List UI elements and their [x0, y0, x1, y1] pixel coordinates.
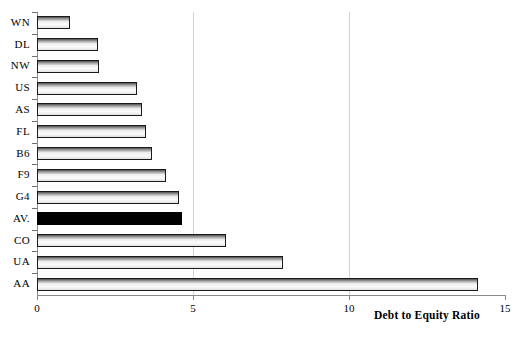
- bar-row: [37, 208, 505, 230]
- bar-row: [37, 164, 505, 186]
- bar-row: [37, 251, 505, 273]
- y-tick-label-av: AV.: [0, 213, 30, 224]
- x-tick-mark: [349, 295, 350, 300]
- x-tick-label-10: 10: [344, 302, 355, 314]
- x-tick-mark: [505, 295, 506, 300]
- x-tick-mark: [37, 295, 38, 300]
- bar-row: [37, 273, 505, 295]
- bar-co: [37, 234, 226, 247]
- y-tick-label-fl: FL: [0, 126, 30, 137]
- chart-container: WNDLNWUSASFLB6F9G4AV.COUAAA 051015 Debt …: [0, 0, 525, 337]
- bar-g4: [37, 191, 179, 204]
- x-axis-title: Debt to Equity Ratio: [374, 309, 480, 321]
- y-tick-label-dl: DL: [0, 39, 30, 50]
- bar-row: [37, 77, 505, 99]
- y-tick-label-nw: NW: [0, 60, 30, 71]
- bar-row: [37, 230, 505, 252]
- x-tick-label-15: 15: [500, 302, 511, 314]
- y-tick-label-g4: G4: [0, 191, 30, 202]
- bar-b6: [37, 147, 152, 160]
- y-tick-label-b6: B6: [0, 148, 30, 159]
- bar-aa: [37, 278, 478, 291]
- y-tick-label-as: AS: [0, 104, 30, 115]
- bar-row: [37, 143, 505, 165]
- y-tick-label-us: US: [0, 82, 30, 93]
- x-axis-line: [37, 295, 505, 296]
- y-tick-label-wn: WN: [0, 17, 30, 28]
- plot-area: [37, 12, 505, 295]
- bar-us: [37, 82, 137, 95]
- y-tick-label-f9: F9: [0, 169, 30, 180]
- bar-wn: [37, 16, 70, 29]
- bar-fl: [37, 125, 146, 138]
- bar-nw: [37, 60, 99, 73]
- bar-ua: [37, 256, 283, 269]
- bar-row: [37, 56, 505, 78]
- bar-f9: [37, 169, 166, 182]
- bar-row: [37, 34, 505, 56]
- x-tick-mark: [193, 295, 194, 300]
- y-tick-label-ua: UA: [0, 256, 30, 267]
- x-tick-label-0: 0: [34, 302, 40, 314]
- bar-row: [37, 99, 505, 121]
- bar-dl: [37, 38, 98, 51]
- bar-row: [37, 12, 505, 34]
- y-axis-labels: WNDLNWUSASFLB6F9G4AV.COUAAA: [0, 12, 30, 295]
- bar-row: [37, 121, 505, 143]
- bar-av: [37, 212, 182, 225]
- x-tick-label-5: 5: [190, 302, 196, 314]
- bar-row: [37, 186, 505, 208]
- y-tick-label-co: CO: [0, 235, 30, 246]
- y-tick-label-aa: AA: [0, 278, 30, 289]
- bar-as: [37, 103, 142, 116]
